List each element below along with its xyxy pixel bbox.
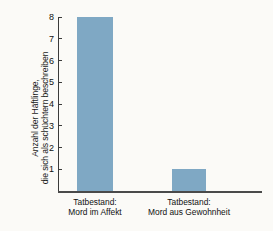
y-axis-tick-label: 2 <box>49 143 54 153</box>
y-axis-tick-label: 3 <box>49 121 54 131</box>
bar <box>77 17 113 191</box>
y-axis-tick-label: 1 <box>49 164 54 174</box>
y-axis-tick-label: 6 <box>49 56 54 66</box>
bar-chart: Anzahl der Häftlinge, die sich als schüc… <box>0 0 273 231</box>
x-axis-category-label-line: Tatbestand: <box>134 197 244 207</box>
bar <box>172 169 206 191</box>
y-axis-tick-label: 8 <box>49 12 54 22</box>
x-axis-category-label-line: Mord aus Gewohnheit <box>134 207 244 217</box>
y-axis-tick-label: 7 <box>49 34 54 44</box>
x-axis-category-label: Tatbestand:Mord aus Gewohnheit <box>134 197 244 218</box>
y-axis-tick-label: 5 <box>49 77 54 87</box>
plot-area <box>59 17 262 191</box>
y-axis-tick-label: 4 <box>49 99 54 109</box>
x-axis-line <box>58 191 262 193</box>
